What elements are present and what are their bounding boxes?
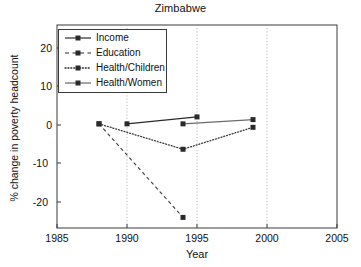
series-health-women [181, 117, 256, 126]
legend-item-health-children: Health/Children [59, 60, 166, 75]
legend-label: Education [96, 47, 140, 59]
legend-item-income: Income [59, 30, 166, 45]
series-health-children [97, 121, 256, 151]
legend-line-education-icon [64, 47, 92, 59]
plot-area [0, 0, 361, 267]
series-income [125, 114, 200, 126]
legend-line-health-children-icon [64, 62, 92, 74]
legend-label: Income [96, 32, 129, 44]
legend-line-health-women-icon [64, 77, 92, 89]
legend-line-income-icon [64, 32, 92, 44]
chart-legend: Income Education Health/Children [58, 29, 167, 93]
legend-item-health-women: Health/Women [59, 75, 166, 90]
legend-item-education: Education [59, 45, 166, 60]
chart-figure: Zimbabwe % change in poverty headcount Y… [0, 0, 361, 267]
legend-label: Health/Children [96, 62, 165, 74]
legend-label: Health/Women [96, 77, 162, 89]
